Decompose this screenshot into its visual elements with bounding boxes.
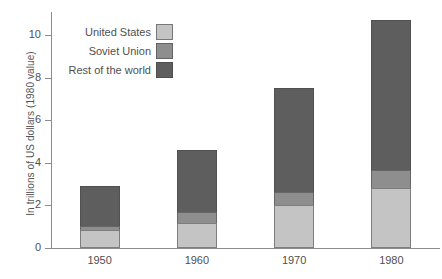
bar-group	[177, 150, 217, 248]
bar-segment	[80, 186, 120, 226]
stacked-bar-chart: In trillions of US dollars (1980 value) …	[0, 0, 442, 279]
bar-segment	[371, 20, 411, 171]
y-axis-title: In trillions of US dollars (1980 value)	[25, 24, 36, 244]
x-axis-tick-label: 1960	[157, 255, 237, 266]
y-axis-tick	[45, 248, 51, 249]
legend-item-label: Soviet Union	[89, 45, 156, 57]
bar-segment	[80, 230, 120, 248]
y-axis-tick-label: 0	[0, 242, 41, 253]
x-axis-tick-label: 1950	[60, 255, 140, 266]
bar-group	[274, 88, 314, 248]
legend-item: United States	[58, 22, 173, 41]
bar-segment	[177, 223, 217, 249]
bar-segment	[274, 205, 314, 248]
x-axis-line	[51, 248, 440, 249]
y-axis-tick-label: 4	[0, 157, 41, 168]
bar-segment	[177, 150, 217, 213]
bar-segment	[371, 170, 411, 189]
y-axis-tick-label: 2	[0, 199, 41, 210]
x-axis-tick-label: 1970	[254, 255, 334, 266]
y-axis-tick-label: 6	[0, 114, 41, 125]
legend-color-swatch	[156, 62, 173, 78]
y-axis-tick-label: 10	[0, 29, 41, 40]
legend-item-label: United States	[85, 26, 156, 38]
bar-segment	[274, 88, 314, 192]
bar-segment	[371, 188, 411, 248]
chart-legend: United StatesSoviet UnionRest of the wor…	[58, 22, 173, 79]
y-axis-tick-label: 8	[0, 72, 41, 83]
bar-segment	[274, 192, 314, 207]
legend-color-swatch	[156, 24, 173, 40]
legend-color-swatch	[156, 43, 173, 59]
legend-item: Soviet Union	[58, 41, 173, 60]
bar-group	[80, 186, 120, 248]
x-axis-tick-label: 1980	[351, 255, 431, 266]
legend-item-label: Rest of the world	[68, 64, 156, 76]
bar-group	[371, 20, 411, 248]
legend-item: Rest of the world	[58, 60, 173, 79]
